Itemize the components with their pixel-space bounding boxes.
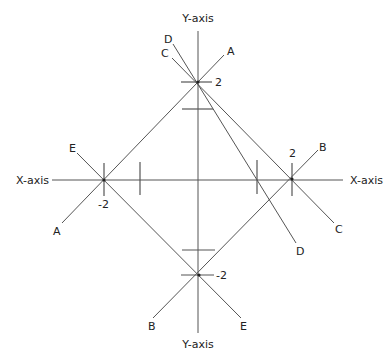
tick-label-left: -2 bbox=[98, 198, 109, 211]
line-b-label-end: B bbox=[319, 141, 327, 154]
line-b-label-start: B bbox=[148, 320, 156, 333]
y-axis-label-bottom: Y-axis bbox=[181, 338, 214, 351]
tick-label-bottom: -2 bbox=[216, 269, 227, 282]
x-axis-label-right: X-axis bbox=[350, 174, 383, 187]
point-left bbox=[102, 178, 105, 181]
diagram-canvas: Y-axis Y-axis X-axis X-axis 2 2 -2 -2 A … bbox=[0, 0, 390, 362]
line-c-label-start: C bbox=[161, 47, 169, 60]
line-e bbox=[77, 153, 241, 318]
tick-label-top: 2 bbox=[215, 76, 222, 89]
line-a-label-end: A bbox=[227, 45, 235, 58]
line-b bbox=[153, 150, 318, 318]
y-axis-label-top: Y-axis bbox=[181, 12, 214, 25]
line-a bbox=[62, 55, 224, 223]
point-top bbox=[196, 80, 199, 83]
point-right bbox=[290, 177, 293, 180]
line-c bbox=[172, 58, 334, 223]
tick-label-right: 2 bbox=[289, 147, 296, 160]
line-d bbox=[173, 44, 296, 243]
line-e-label-end: E bbox=[240, 320, 247, 333]
line-c-label-end: C bbox=[335, 223, 343, 236]
line-d-label-start: D bbox=[164, 33, 172, 46]
line-a-label-start: A bbox=[53, 225, 61, 238]
line-d-label-end: D bbox=[296, 245, 304, 258]
point-bottom bbox=[197, 273, 200, 276]
line-e-label-start: E bbox=[69, 142, 76, 155]
x-axis-label-left: X-axis bbox=[16, 174, 49, 187]
